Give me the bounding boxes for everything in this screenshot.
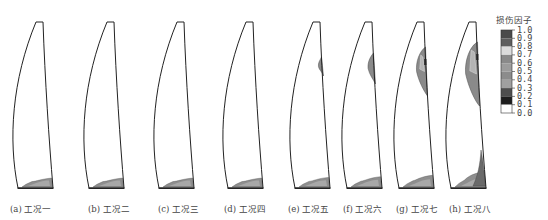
legend-swatch [501, 72, 512, 80]
legend-swatch [501, 47, 512, 55]
legend-title: 损伤因子 [496, 13, 532, 25]
legend-colorbar [501, 30, 515, 113]
caption-g: (g) 工况七 [396, 202, 438, 214]
blade-d [223, 22, 264, 188]
blade-g [394, 22, 435, 188]
blade-f [342, 22, 383, 188]
legend-swatch [501, 55, 512, 63]
blade-e [290, 22, 331, 188]
legend-tick-label: 0.0 [517, 109, 532, 118]
caption-h: (h) 工况八 [449, 202, 491, 214]
caption-f: (f) 工况六 [343, 202, 382, 214]
blade-c [154, 22, 195, 188]
legend-swatch [501, 88, 512, 96]
damage-figure [0, 0, 548, 220]
legend-swatch [501, 63, 512, 71]
caption-e: (e) 工况五 [288, 202, 329, 214]
legend-swatch [501, 96, 512, 104]
legend-swatch [501, 105, 512, 113]
legend-swatch [501, 38, 512, 46]
legend-swatch [501, 30, 512, 38]
legend-swatch [501, 80, 512, 88]
blade-h [446, 22, 487, 188]
caption-c: (c) 工况三 [158, 202, 199, 214]
caption-d: (d) 工况四 [224, 202, 266, 214]
blade-b [84, 22, 125, 188]
blade-a [13, 22, 54, 188]
caption-b: (b) 工况二 [88, 202, 130, 214]
caption-a: (a) 工况一 [10, 202, 51, 214]
